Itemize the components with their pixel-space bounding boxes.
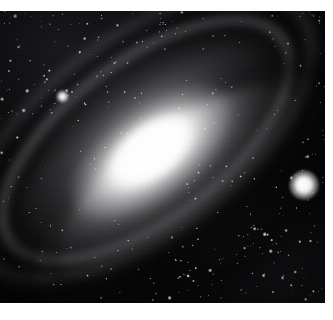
paper-margin-right <box>325 0 333 320</box>
paper-margin-bottom <box>0 303 333 320</box>
astronomical-plate <box>0 11 325 303</box>
paper-margin-top <box>0 0 333 11</box>
screenshot-root: Grayscale astronomical photographic plat… <box>0 0 333 320</box>
night-sky-background <box>0 11 325 303</box>
